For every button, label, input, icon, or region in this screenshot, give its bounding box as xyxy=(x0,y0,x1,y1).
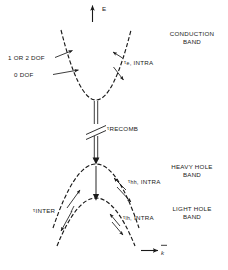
band-diagram-figure: E k 1 OR 2 DOF 0 DOF τe, INTRA τRECOMB τ… xyxy=(0,0,228,270)
conduction-band-label: CONDUCTION BAND xyxy=(161,30,223,46)
tau-inter-label: τINTER xyxy=(33,207,55,215)
light-hole-band-label-line1: LIGHT HOLE xyxy=(161,205,223,213)
heavy-hole-band-label-line1: HEAVY HOLE xyxy=(161,163,223,171)
tau-e-rest: , INTRA xyxy=(130,59,154,66)
tau-e-intra-arrow xyxy=(113,52,124,80)
tau-hh-rest: , INTRA xyxy=(137,178,161,185)
conduction-band-curve xyxy=(61,30,131,100)
dof-upper-leader xyxy=(55,51,73,58)
tau-hh-intra-label: τhh, INTRA xyxy=(128,178,161,187)
conduction-band-label-line1: CONDUCTION xyxy=(161,30,223,38)
tau-inter-arrow xyxy=(61,190,80,231)
energy-axis-label: E xyxy=(102,5,106,13)
tau-lh-rest: , INTRA xyxy=(130,214,154,221)
heavy-hole-band-label-line2: BAND xyxy=(161,171,223,179)
tau-lh-intra-label: τlh, INTRA xyxy=(123,214,154,223)
tau-inter-rest: INTER xyxy=(36,207,56,214)
conduction-band-label-line2: BAND xyxy=(161,38,223,46)
dof-lower-label: 0 DOF xyxy=(14,71,33,79)
light-hole-band-label: LIGHT HOLE BAND xyxy=(161,205,223,221)
light-hole-band-label-line2: BAND xyxy=(161,213,223,221)
tau-recomb-label: τRECOMB xyxy=(107,125,138,133)
recombination-arrow xyxy=(86,101,106,165)
tau-recomb-rest: RECOMB xyxy=(110,125,139,132)
momentum-axis-label: k xyxy=(161,249,164,257)
dof-upper-label: 1 OR 2 DOF xyxy=(8,54,45,62)
tau-e-intra-label: τe, INTRA xyxy=(124,59,153,68)
interband-arrow xyxy=(93,166,99,201)
heavy-hole-band-label: HEAVY HOLE BAND xyxy=(161,163,223,179)
